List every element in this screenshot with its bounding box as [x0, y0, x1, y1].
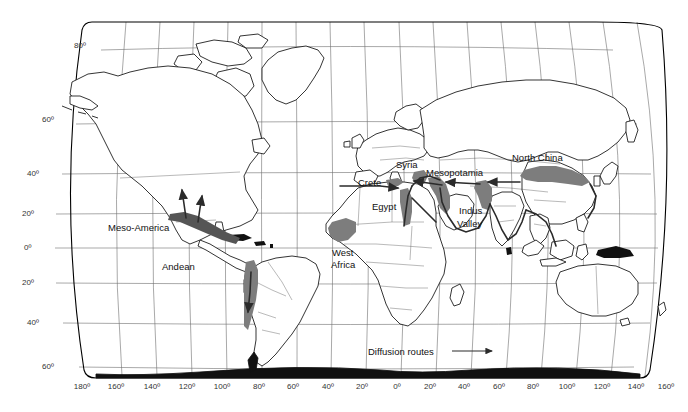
lon-label-20e: 20º — [424, 382, 436, 391]
hearth-label-andean: Andean — [162, 261, 195, 272]
lon-label-160e: 160º — [658, 382, 674, 391]
lon-label-80e: 80º — [527, 382, 539, 391]
lat-label-0: 0º — [24, 243, 31, 252]
lon-label-20w: 20º — [356, 382, 368, 391]
lon-label-0: 0º — [393, 382, 400, 391]
lat-label-40n: 40º — [27, 169, 39, 178]
map-figure: 80º 60º 40º 20º 0º 20º 40º 60º 180º 160º… — [0, 0, 688, 412]
lat-label-20n: 20º — [22, 209, 34, 218]
lon-label-100e: 100º — [559, 382, 575, 391]
lon-label-100w: 100º — [214, 382, 230, 391]
coastline-ireland — [344, 141, 350, 147]
lon-label-140e: 140º — [628, 382, 644, 391]
hearth-label-indus-line1: Indus — [459, 205, 482, 216]
lat-label-60n: 60º — [42, 115, 54, 124]
hearth-label-meso-america: Meso-America — [108, 222, 170, 233]
hearth-label-indus-line2: Valley — [457, 218, 482, 229]
lon-label-160w: 160º — [108, 382, 124, 391]
hearth-label-syria: Syria — [396, 159, 418, 170]
coastline-tasmania — [620, 318, 630, 326]
lat-label-60s: 60º — [42, 362, 54, 371]
lon-label-40e: 40º — [458, 382, 470, 391]
lon-label-120e: 120º — [594, 382, 610, 391]
coastline-korea — [594, 176, 600, 186]
legend-label-diffusion-routes: Diffusion routes — [368, 346, 434, 357]
hearth-label-west-africa-line2: Africa — [331, 259, 356, 270]
world-map-svg: 80º 60º 40º 20º 0º 20º 40º 60º 180º 160º… — [0, 0, 688, 412]
lon-label-40w: 40º — [322, 382, 334, 391]
lon-label-140w: 140º — [144, 382, 160, 391]
lon-label-60e: 60º — [493, 382, 505, 391]
lat-label-80n: 80º — [74, 41, 86, 50]
coastline-sri-lanka — [506, 247, 512, 255]
lon-label-120w: 120º — [179, 382, 195, 391]
lon-label-80w: 80º — [253, 382, 265, 391]
hearth-label-west-africa-line1: West — [332, 247, 354, 258]
hearth-label-mesopotamia: Mesopotamia — [426, 167, 484, 178]
hearth-label-crete: Crete — [358, 177, 381, 188]
hearth-label-egypt: Egypt — [372, 201, 397, 212]
lat-label-20s: 20º — [22, 278, 34, 287]
lat-label-40s: 40º — [27, 318, 39, 327]
coastline-lesser-antilles — [270, 244, 273, 248]
lon-label-60w: 60º — [287, 382, 299, 391]
hearth-label-north-china: North China — [512, 152, 563, 163]
lon-label-180w: 180º — [74, 382, 90, 391]
